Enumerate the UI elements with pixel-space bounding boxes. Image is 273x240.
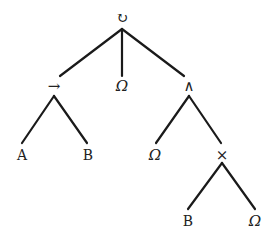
- edge-n1-n5: [54, 96, 87, 143]
- edge-n3-n6: [156, 96, 189, 143]
- edge-n3-n7: [189, 96, 221, 143]
- node-xor-operator: ×: [216, 146, 229, 164]
- node-and-operator: ∧: [184, 77, 195, 95]
- node-B-leaf: B: [183, 213, 193, 229]
- node-omega-leaf: Ω: [115, 77, 128, 95]
- edge-n0-n1: [60, 29, 122, 76]
- edge-n0-n3: [122, 29, 184, 76]
- node-omega-leaf: Ω: [148, 146, 161, 164]
- node-loop-operator: ↻: [116, 9, 129, 27]
- node-A-leaf: A: [16, 147, 28, 163]
- edge-n7-n9: [222, 163, 255, 209]
- process-tree-diagram: ↻→Ω∧ABΩ×BΩ: [0, 0, 273, 240]
- edge-n1-n4: [22, 96, 54, 143]
- node-omega-leaf: Ω: [248, 212, 261, 230]
- tree-edges: [22, 29, 255, 209]
- node-sequence-operator: →: [48, 77, 61, 95]
- node-B-leaf: B: [83, 147, 93, 163]
- edge-n7-n8: [188, 163, 222, 209]
